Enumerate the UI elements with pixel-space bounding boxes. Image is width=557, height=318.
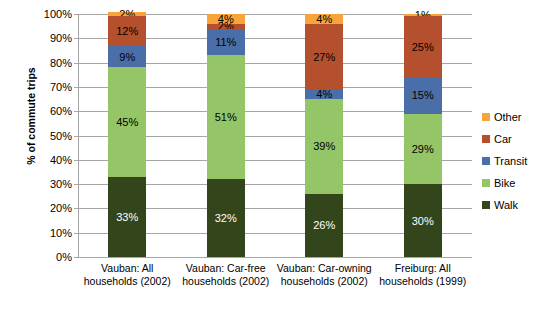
segment-value-label: 30% bbox=[412, 215, 434, 226]
plot-area: 100%90%80%70%60%50%40%30%20%10%0% 2%12%9… bbox=[78, 14, 472, 257]
segment-value-label: 39% bbox=[313, 141, 335, 152]
y-tick-label: 100% bbox=[12, 14, 72, 15]
legend-swatch-icon bbox=[482, 179, 490, 187]
y-tick-label: 20% bbox=[12, 208, 72, 209]
gridline bbox=[78, 257, 472, 258]
bar-segment-car[interactable]: 27% bbox=[305, 24, 343, 90]
legend-swatch-icon bbox=[482, 157, 490, 165]
segment-value-label: 15% bbox=[412, 90, 434, 101]
y-tick-label: 80% bbox=[12, 63, 72, 64]
bar-segment-bike[interactable]: 51% bbox=[207, 55, 245, 179]
x-axis-label: Vauban: Car-owning households (2002) bbox=[272, 262, 376, 288]
x-axis-label: Vauban: All households (2002) bbox=[75, 262, 179, 288]
legend-label: Transit bbox=[494, 155, 527, 167]
bar-segment-transit[interactable]: 15% bbox=[404, 77, 442, 113]
legend-label: Other bbox=[494, 111, 522, 123]
x-axis-label: Vauban: Car-free households (2002) bbox=[174, 262, 278, 288]
segment-value-label: 11% bbox=[215, 36, 236, 47]
legend-item-other[interactable]: Other bbox=[482, 106, 527, 128]
legend-swatch-icon bbox=[482, 135, 490, 143]
y-tick-mark bbox=[74, 136, 78, 137]
y-tick-mark bbox=[74, 111, 78, 112]
y-tick-mark bbox=[74, 257, 78, 258]
legend-item-transit[interactable]: Transit bbox=[482, 150, 527, 172]
y-tick-label: 30% bbox=[12, 184, 72, 185]
y-tick-mark bbox=[74, 14, 78, 15]
y-tick-mark bbox=[74, 63, 78, 64]
legend-item-car[interactable]: Car bbox=[482, 128, 527, 150]
segment-value-label: 45% bbox=[116, 117, 138, 128]
y-tick-label: 90% bbox=[12, 38, 72, 39]
y-tick-mark bbox=[74, 184, 78, 185]
legend-label: Walk bbox=[494, 199, 518, 211]
bar-segment-walk[interactable]: 26% bbox=[305, 194, 343, 257]
segment-value-label: 4% bbox=[316, 89, 332, 100]
legend-label: Bike bbox=[494, 177, 515, 189]
segment-value-label: 25% bbox=[412, 41, 434, 52]
bar-segment-transit[interactable]: 9% bbox=[108, 46, 146, 68]
bar-segment-walk[interactable]: 32% bbox=[207, 179, 245, 257]
bar-segment-car[interactable]: 25% bbox=[404, 16, 442, 77]
y-tick-label: 60% bbox=[12, 111, 72, 112]
y-tick-mark bbox=[74, 160, 78, 161]
legend-item-walk[interactable]: Walk bbox=[482, 194, 527, 216]
segment-value-label: 29% bbox=[412, 143, 434, 154]
legend-swatch-icon bbox=[482, 201, 490, 209]
legend-item-bike[interactable]: Bike bbox=[482, 172, 527, 194]
y-tick-label: 10% bbox=[12, 233, 72, 234]
y-tick-mark bbox=[74, 38, 78, 39]
bar-segment-transit[interactable]: 4% bbox=[305, 89, 343, 99]
legend: OtherCarTransitBikeWalk bbox=[482, 106, 527, 216]
y-tick-label: 50% bbox=[12, 136, 72, 137]
x-axis-label: Freiburg: All households (1999) bbox=[371, 262, 475, 288]
y-tick-label: 40% bbox=[12, 160, 72, 161]
bar-stack[interactable]: 4%27%4%39%26% bbox=[305, 14, 343, 257]
segment-value-label: 51% bbox=[215, 112, 237, 123]
bar-stack[interactable]: 4%2%11%51%32% bbox=[207, 14, 245, 257]
bar-segment-other[interactable]: 4% bbox=[305, 14, 343, 24]
segment-value-label: 26% bbox=[313, 220, 335, 231]
stacked-bar-chart: % of commute trips 100%90%80%70%60%50%40… bbox=[0, 0, 557, 318]
bar-stack[interactable]: 2%12%9%45%33% bbox=[108, 12, 146, 257]
bar-segment-bike[interactable]: 39% bbox=[305, 99, 343, 194]
legend-label: Car bbox=[494, 133, 512, 145]
bar-stack[interactable]: 1%25%15%29%30% bbox=[404, 14, 442, 257]
segment-value-label: 33% bbox=[116, 211, 138, 222]
y-tick-mark bbox=[74, 208, 78, 209]
y-tick-label: 0% bbox=[12, 257, 72, 258]
segment-value-label: 27% bbox=[313, 51, 335, 62]
segment-value-label: 32% bbox=[215, 213, 237, 224]
y-tick-mark bbox=[74, 87, 78, 88]
legend-swatch-icon bbox=[482, 113, 490, 121]
bar-segment-bike[interactable]: 45% bbox=[108, 67, 146, 176]
bar-segment-walk[interactable]: 30% bbox=[404, 184, 442, 257]
y-tick-mark bbox=[74, 233, 78, 234]
bar-segment-transit[interactable]: 11% bbox=[207, 29, 245, 56]
bar-segment-walk[interactable]: 33% bbox=[108, 177, 146, 257]
bar-segment-bike[interactable]: 29% bbox=[404, 114, 442, 184]
y-tick-label: 70% bbox=[12, 87, 72, 88]
segment-value-label: 12% bbox=[116, 26, 138, 37]
bar-segment-car[interactable]: 12% bbox=[108, 16, 146, 45]
segment-value-label: 4% bbox=[316, 13, 332, 24]
segment-value-label: 9% bbox=[119, 51, 135, 62]
